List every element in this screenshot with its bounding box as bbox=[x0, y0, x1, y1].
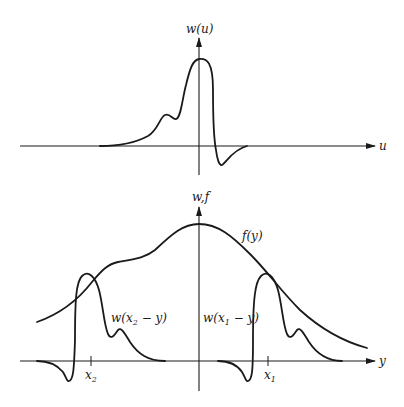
x2-tick-label: x2 bbox=[85, 368, 97, 384]
w-of-u-curve bbox=[100, 59, 247, 165]
u-axis-label: u bbox=[379, 139, 387, 153]
w-f-axis-label: w,f bbox=[192, 190, 212, 204]
figure: w(u) u w,f y f(y) w(x2 − y) w(x1 − y) x2… bbox=[0, 0, 404, 407]
w-x2-minus-y-label: w(x2 − y) bbox=[111, 311, 167, 327]
y-axis-label: y bbox=[378, 354, 386, 368]
w-of-u-axis-label: w(u) bbox=[186, 22, 214, 36]
w-x2-minus-y-curve bbox=[37, 274, 165, 381]
f-of-y-label: f(y) bbox=[241, 229, 263, 243]
f-of-y-curve bbox=[37, 224, 367, 348]
bottom-panel: w,f y f(y) w(x2 − y) w(x1 − y) x2 x1 bbox=[20, 190, 386, 391]
w-x1-minus-y-label: w(x1 − y) bbox=[203, 311, 259, 327]
x1-tick-label: x1 bbox=[264, 368, 276, 384]
top-panel: w(u) u bbox=[20, 22, 387, 175]
